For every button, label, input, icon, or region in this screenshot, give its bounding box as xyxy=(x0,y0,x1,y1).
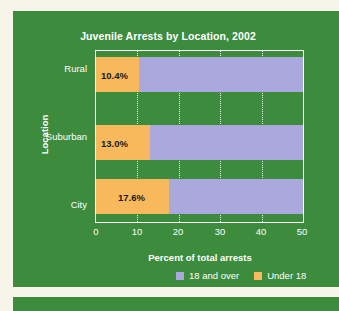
x-axis-title: Percent of total arrests xyxy=(95,252,305,263)
x-tick-0: 0 xyxy=(81,226,111,237)
chart-title: Juvenile Arrests by Location, 2002 xyxy=(13,30,323,42)
plot-area: 10.4% 13.0% 17.6% xyxy=(95,50,304,223)
plot-inner: 10.4% 13.0% 17.6% xyxy=(96,51,303,222)
bar-value-label-city: 17.6% xyxy=(118,191,145,202)
chart-panel: Juvenile Arrests by Location, 2002 Locat… xyxy=(13,11,339,287)
legend-swatch-under-18-icon xyxy=(254,272,262,280)
x-tick-30: 30 xyxy=(205,226,235,237)
category-label-suburban: Suburban xyxy=(13,131,87,142)
bar-row-city: 17.6% xyxy=(96,179,303,214)
x-tick-20: 20 xyxy=(163,226,193,237)
legend-swatch-18-and-over-icon xyxy=(176,272,184,280)
bar-segment-18-and-over-rural[interactable] xyxy=(139,57,303,92)
category-label-rural: Rural xyxy=(13,63,87,74)
legend-item-18-and-over[interactable]: 18 and over xyxy=(176,270,239,281)
chart-legend: 18 and over Under 18 xyxy=(176,270,306,281)
legend-label-18-and-over: 18 and over xyxy=(189,270,239,281)
bar-value-label-suburban: 13.0% xyxy=(101,137,128,148)
x-tick-50: 50 xyxy=(287,226,317,237)
bar-segment-18-and-over-suburban[interactable] xyxy=(150,125,303,160)
x-tick-40: 40 xyxy=(246,226,276,237)
bar-row-suburban: 13.0% xyxy=(96,125,303,160)
bar-segment-18-and-over-city[interactable] xyxy=(169,179,303,214)
bar-row-rural: 10.4% xyxy=(96,57,303,92)
legend-label-under-18: Under 18 xyxy=(267,270,306,281)
lower-panel xyxy=(13,297,339,311)
x-tick-10: 10 xyxy=(122,226,152,237)
category-label-city: City xyxy=(13,199,87,210)
bar-value-label-rural: 10.4% xyxy=(101,69,128,80)
legend-item-under-18[interactable]: Under 18 xyxy=(254,270,306,281)
